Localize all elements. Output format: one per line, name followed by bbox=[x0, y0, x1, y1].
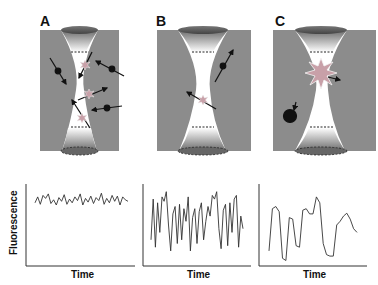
y-axis-label: Fluorescence bbox=[8, 191, 19, 255]
panel-c bbox=[273, 26, 376, 155]
panel-b bbox=[157, 26, 251, 155]
objective-lens-top bbox=[61, 26, 98, 34]
chart-1 bbox=[26, 184, 135, 266]
x-axis-label-3: Time bbox=[303, 269, 326, 280]
chart-3 bbox=[259, 184, 367, 266]
objective-lens-bottom bbox=[61, 147, 98, 155]
panel-label-b: B bbox=[156, 13, 166, 29]
figure-canvas bbox=[0, 0, 378, 285]
panel-label-c: C bbox=[275, 13, 285, 29]
objective-lens-top bbox=[295, 26, 347, 34]
panel-label-a: A bbox=[40, 13, 50, 29]
x-axis-label-2: Time bbox=[187, 269, 210, 280]
fluorescence-trace bbox=[151, 192, 243, 251]
x-axis-label-1: Time bbox=[71, 269, 94, 280]
fluorescence-trace bbox=[269, 197, 357, 261]
objective-lens-bottom bbox=[178, 147, 228, 155]
chart-2 bbox=[143, 184, 251, 266]
objective-lens-top bbox=[178, 26, 228, 34]
panel-a bbox=[40, 26, 124, 155]
fluorescence-trace bbox=[35, 193, 128, 205]
objective-lens-bottom bbox=[295, 147, 347, 155]
chart-axes bbox=[259, 184, 367, 266]
